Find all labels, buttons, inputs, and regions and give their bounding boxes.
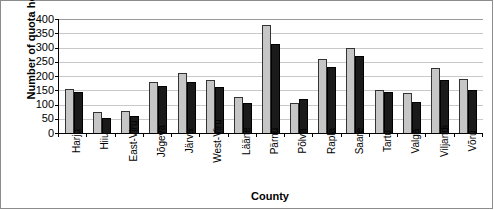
y-axis-tick-label: 300 [18,42,54,53]
x-axis-label-cell: Viljandi [425,139,453,187]
bar [74,92,83,133]
x-axis-label-cell: Harju [58,139,86,187]
bar-group [116,19,144,133]
x-axis-tick-label: Hiiu [100,132,110,149]
x-axis-tick-label: Harju [72,129,82,153]
bar [327,67,336,133]
x-axis-tick-label: Valga [411,129,421,154]
bar-group [257,19,285,133]
x-axis-title: County [58,190,482,202]
x-axis-tick-mark [425,133,426,137]
x-axis-label-cell: Jõgeva [143,139,171,187]
bar [318,59,327,133]
x-axis-tick-label: Rapla [327,128,337,154]
x-axis-tick-mark [86,133,87,137]
x-axis-tick-label: Võru [468,130,478,151]
x-axis-label-cell: Hiiu [86,139,114,187]
x-axis-tick-mark [369,133,370,137]
bar-series-container [59,19,483,133]
plot-area [58,19,483,134]
y-axis-tick-mark [55,76,59,77]
bar-group [285,19,313,133]
bar [346,48,355,133]
bar [459,79,468,133]
x-axis-label-cell: Järva [171,139,199,187]
bar [468,90,477,133]
x-axis-category-labels: HarjuHiiuEast-ViruJõgevaJärvaWest-ViruLä… [58,139,482,187]
bar [355,56,364,133]
x-axis-tick-label: Põlva [298,128,308,153]
bar-group [313,19,341,133]
x-axis-label-cell: Põlva [284,139,312,187]
bar-group [229,19,257,133]
bar [102,118,111,133]
bar-group [88,19,116,133]
x-axis-tick-mark [256,133,257,137]
x-axis-label-cell: East-Viru [115,139,143,187]
bar-group [201,19,229,133]
x-axis-tick-mark [58,133,59,137]
x-axis-tick-label: Saare [355,128,365,155]
x-axis-tick-mark [397,133,398,137]
x-axis-tick-label: Tartu [383,130,393,152]
bar-group [173,19,201,133]
bar [375,90,384,133]
bar-group [398,19,426,133]
bar-group [60,19,88,133]
x-axis-tick-label: Järva [185,129,195,153]
y-axis-tick-labels: 400350300250200150100500 [18,13,54,139]
bar [187,82,196,133]
x-axis-label-cell: Lääne [228,139,256,187]
bar-group [454,19,482,133]
x-axis-label-cell: Valga [397,139,425,187]
x-axis-tick-label: Jõgeva [157,125,167,157]
x-axis-tick-mark [341,133,342,137]
x-axis-label-cell: West-Viru [199,139,227,187]
y-axis-tick-label: 150 [18,85,54,96]
x-axis-tick-mark [143,133,144,137]
x-axis-tick-mark [171,133,172,137]
x-axis-label-cell: Rapla [312,139,340,187]
x-axis-tick-mark [482,133,483,137]
y-axis-tick-mark [55,119,59,120]
x-axis-tick-label: Pärnu [270,128,280,155]
bar-group [144,19,172,133]
chart-figure: Number of quota holders 4003503002502001… [0,0,494,210]
y-axis-tick-mark [55,90,59,91]
y-axis-tick-mark [55,62,59,63]
y-axis-tick-label: 350 [18,28,54,39]
x-axis-tick-mark [199,133,200,137]
y-axis-tick-mark [55,105,59,106]
y-axis-tick-mark [55,19,59,20]
x-axis-label-cell: Pärnu [256,139,284,187]
y-axis-tick-mark [55,48,59,49]
y-axis-tick-label: 50 [18,113,54,124]
bar-group [370,19,398,133]
bar [271,44,280,133]
x-axis-tick-label: East-Viru [129,121,139,162]
x-axis-tick-label: Lääne [242,127,252,155]
bar [178,73,187,133]
y-axis-tick-mark [55,33,59,34]
bar [431,68,440,133]
bar [262,25,271,133]
bar [93,112,102,133]
y-axis-tick-label: 200 [18,71,54,82]
x-axis-label-cell: Võru [454,139,482,187]
x-axis-tick-mark [312,133,313,137]
bar-group [341,19,369,133]
bar [384,92,393,133]
x-axis-label-cell: Saare [341,139,369,187]
y-axis-tick-label: 250 [18,56,54,67]
bar [65,89,74,133]
x-axis-tick-mark [284,133,285,137]
bar [403,93,412,133]
x-axis-tick-mark [228,133,229,137]
bar-group [426,19,454,133]
x-axis-tick-label: Viljandi [440,125,450,157]
x-axis-tick-mark [454,133,455,137]
x-axis-tick-mark [115,133,116,137]
y-axis-tick-label: 400 [18,14,54,25]
x-axis-tick-label: West-Viru [213,119,223,163]
y-axis-tick-label: 100 [18,99,54,110]
